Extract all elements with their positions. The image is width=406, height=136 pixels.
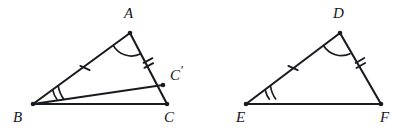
segment-df	[340, 33, 381, 104]
segment-ab	[33, 33, 130, 104]
segment-ac	[130, 33, 167, 104]
vertex-dot-a	[128, 31, 133, 36]
vertex-dot-e	[244, 102, 249, 107]
triangle-abc	[31, 31, 170, 107]
vertex-label-a: A	[124, 6, 133, 21]
vertex-label-e: E	[236, 110, 245, 125]
geometry-figure: A B C C′ D E F	[0, 0, 406, 136]
vertex-label-f: F	[380, 110, 389, 125]
vertex-label-d: D	[333, 6, 344, 21]
prime-mark-icon: ′	[180, 62, 183, 77]
vertex-label-c-prime-base: C	[170, 67, 180, 83]
angle-arc-d	[324, 46, 351, 56]
angle-arc-e-inner	[265, 90, 270, 100]
vertex-label-c: C	[164, 110, 174, 125]
triangle-def	[244, 31, 384, 107]
vertex-dot-d	[338, 31, 343, 36]
vertex-dot-b	[31, 102, 36, 107]
vertex-dot-f	[379, 102, 384, 107]
angle-arc-e-outer	[271, 86, 277, 100]
vertex-label-c-prime: C′	[170, 63, 183, 83]
vertex-dot-c-prime	[161, 83, 166, 88]
vertex-label-b: B	[13, 110, 22, 125]
geometry-canvas	[0, 0, 406, 136]
angle-arc-b-outer	[58, 86, 64, 100]
vertex-dot-c	[165, 102, 170, 107]
segment-bc-prime	[33, 85, 163, 104]
angle-arc-b-inner	[53, 90, 58, 100]
